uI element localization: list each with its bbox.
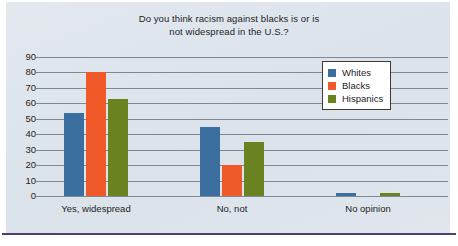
x-axis-category-label: No, not xyxy=(217,203,248,214)
bar-whites-0 xyxy=(64,113,84,196)
y-axis-tick-mark xyxy=(36,72,41,73)
y-axis-tick-mark xyxy=(36,103,41,104)
y-axis-tick-label: 20 xyxy=(14,160,36,169)
legend-label: Whites xyxy=(342,67,371,78)
legend-swatch-icon xyxy=(328,69,336,77)
legend-label: Blacks xyxy=(342,80,370,91)
bar-whites-1 xyxy=(200,127,220,197)
bar-hispanics-0 xyxy=(108,99,128,196)
bar-blacks-1 xyxy=(222,165,242,196)
y-axis-tick-mark xyxy=(36,196,41,197)
chart-title: Do you think racism against blacks is or… xyxy=(0,12,458,38)
chart-title-line-1: Do you think racism against blacks is or… xyxy=(0,12,458,25)
y-axis: 9080706050403020100 xyxy=(10,57,36,196)
gridline xyxy=(40,57,448,58)
y-axis-tick-label: 70 xyxy=(14,83,36,92)
y-axis-tick-label: 60 xyxy=(14,98,36,107)
legend-item-blacks[interactable]: Blacks xyxy=(328,79,383,92)
y-axis-tick-label: 0 xyxy=(14,191,36,200)
bar-hispanics-2 xyxy=(380,193,400,196)
chart-title-line-2: not widespread in the U.S.? xyxy=(0,25,458,38)
y-axis-tick-label: 80 xyxy=(14,67,36,76)
y-axis-tick-mark xyxy=(36,134,41,135)
legend-item-whites[interactable]: Whites xyxy=(328,66,383,79)
y-axis-tick-mark xyxy=(36,88,41,89)
bottom-divider xyxy=(2,233,456,235)
y-axis-tick-label: 50 xyxy=(14,114,36,123)
bar-blacks-0 xyxy=(86,72,106,196)
chart-legend: WhitesBlacksHispanics xyxy=(322,61,391,110)
y-axis-tick-label: 30 xyxy=(14,145,36,154)
chart-figure: Do you think racism against blacks is or… xyxy=(0,0,458,246)
bar-whites-2 xyxy=(336,193,356,196)
x-axis-category-label: No opinion xyxy=(345,203,390,214)
x-axis-labels: Yes, widespreadNo, notNo opinion xyxy=(40,203,448,219)
x-axis-category-label: Yes, widespread xyxy=(61,203,130,214)
y-axis-tick-mark xyxy=(36,57,41,58)
y-axis-tick-label: 90 xyxy=(14,52,36,61)
y-axis-tick-label: 10 xyxy=(14,176,36,185)
legend-swatch-icon xyxy=(328,82,336,90)
legend-label: Hispanics xyxy=(342,93,383,104)
gridline xyxy=(40,196,448,197)
legend-swatch-icon xyxy=(328,95,336,103)
y-axis-tick-mark xyxy=(36,165,41,166)
legend-item-hispanics[interactable]: Hispanics xyxy=(328,92,383,105)
y-axis-tick-mark xyxy=(36,181,41,182)
y-axis-tick-mark xyxy=(36,119,41,120)
bar-hispanics-1 xyxy=(244,142,264,196)
y-axis-tick-mark xyxy=(36,150,41,151)
y-axis-tick-label: 40 xyxy=(14,129,36,138)
